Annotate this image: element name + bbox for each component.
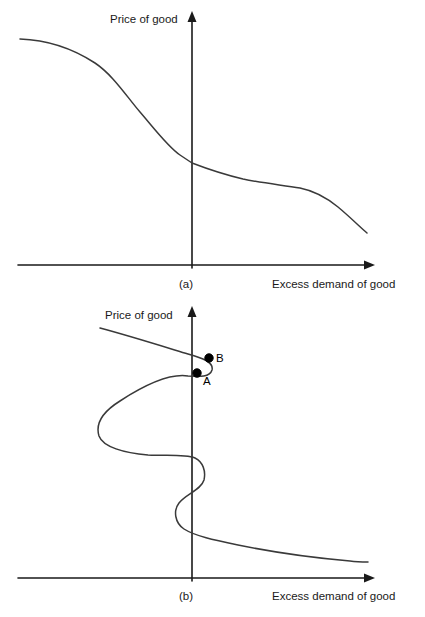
point-a-marker xyxy=(193,369,201,377)
panel-b-y-axis-label: Price of good xyxy=(105,309,173,321)
excess-demand-figure: Price of good Excess demand of good (a) … xyxy=(0,0,425,617)
panel-a-x-axis-arrow-icon xyxy=(364,261,375,270)
panel-a-x-axis-label: Excess demand of good xyxy=(272,278,395,290)
panel-b: A B Price of good Excess demand of good … xyxy=(18,306,395,602)
point-b-label: B xyxy=(216,352,224,364)
panel-a-caption: (a) xyxy=(179,278,193,290)
panel-a-demand-curve xyxy=(20,39,367,233)
panel-b-x-axis-label: Excess demand of good xyxy=(272,590,395,602)
panel-b-y-axis-arrow-icon xyxy=(188,306,197,317)
panel-a-y-axis-label: Price of good xyxy=(110,13,178,25)
panel-b-demand-curve xyxy=(98,328,368,562)
panel-a-y-axis-arrow-icon xyxy=(188,11,197,22)
panel-b-x-axis-arrow-icon xyxy=(364,574,375,583)
point-a-label: A xyxy=(203,375,211,387)
point-b-marker xyxy=(205,354,213,362)
panel-a: Price of good Excess demand of good (a) xyxy=(18,11,395,290)
panel-b-caption: (b) xyxy=(179,590,193,602)
